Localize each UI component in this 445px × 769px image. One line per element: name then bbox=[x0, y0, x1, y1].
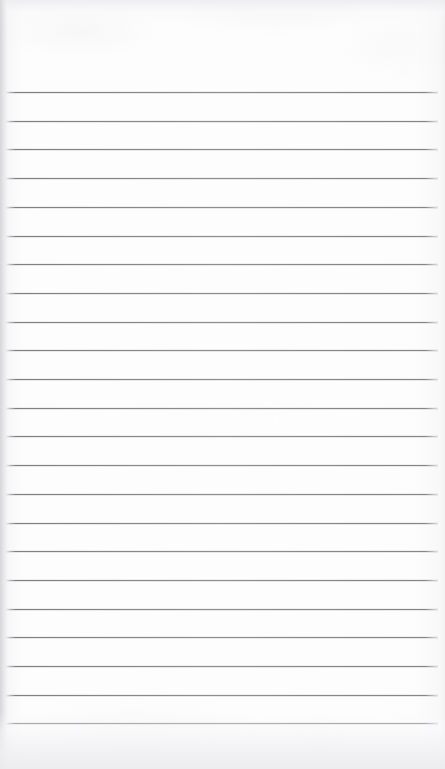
paper-sheet bbox=[0, 0, 445, 769]
blank-header-margin bbox=[0, 0, 445, 92]
scanned-page-canvas bbox=[0, 0, 445, 769]
